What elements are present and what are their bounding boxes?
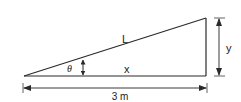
hypotenuse-line: [24, 18, 206, 76]
angle-label: θ: [67, 63, 72, 74]
height-label: y: [226, 42, 232, 54]
incline-triangle-diagram: L x y θ 3 m: [0, 0, 241, 102]
height-dimension: [214, 18, 225, 76]
triangle: [24, 18, 206, 76]
base-label: x: [124, 63, 130, 75]
diagram-canvas: L x y θ 3 m: [0, 0, 241, 102]
hypotenuse-label: L: [122, 33, 128, 45]
base-dimension-label: 3 m: [112, 91, 129, 102]
